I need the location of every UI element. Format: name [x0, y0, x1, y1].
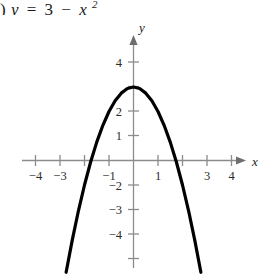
x-tick-label: 4 [228, 169, 235, 183]
y-tick-labels: 4 2 1 −2 −3 −4 [109, 56, 123, 242]
y-tick-label: −2 [109, 179, 122, 193]
y-axis-label: y [137, 20, 145, 35]
x-tick-label: 3 [204, 169, 210, 183]
y-tick-label: 2 [116, 105, 122, 119]
y-tick-label: −4 [109, 228, 123, 242]
arrow-right-icon [236, 156, 246, 164]
x-axis-label: x [251, 154, 258, 169]
y-tick-label: 1 [116, 129, 122, 143]
x-tick-label: −3 [53, 169, 66, 183]
arrow-up-icon [129, 35, 137, 45]
y-axis [129, 35, 137, 268]
x-tick-labels: −4 −3 −1 1 3 4 [29, 169, 236, 183]
figure-page: ) y = 3 − x 2 [0, 0, 272, 280]
coordinate-plot: −4 −3 −1 1 3 4 4 2 1 −2 −3 −4 x y [0, 0, 272, 280]
x-tick-label: 1 [155, 169, 161, 183]
x-tick-label: −4 [29, 169, 43, 183]
y-tick-label: −3 [109, 203, 122, 217]
y-tick-label: 4 [116, 56, 123, 70]
